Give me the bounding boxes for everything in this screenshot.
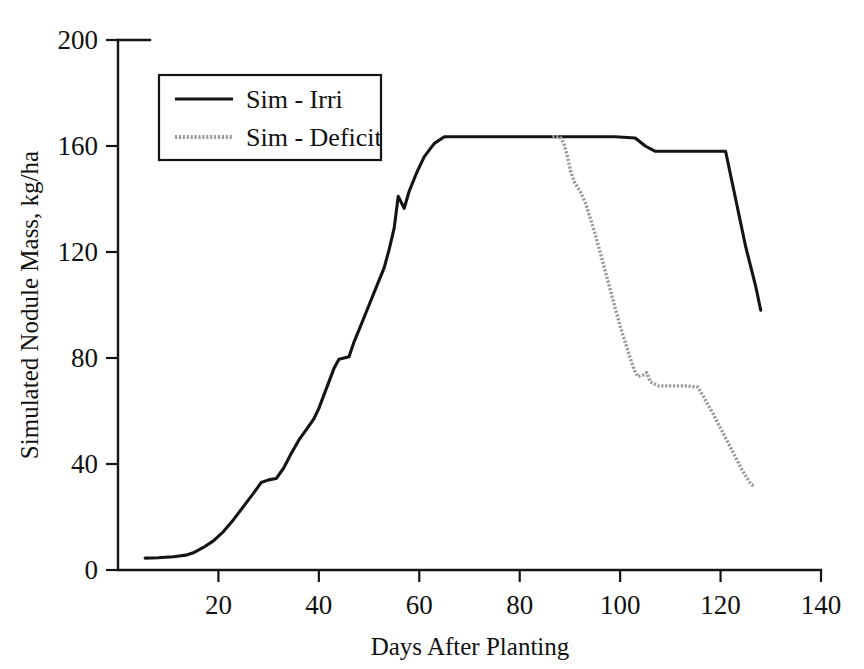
- x-tick-label-120: 120: [700, 590, 741, 620]
- x-tick-label-80: 80: [506, 590, 533, 620]
- y-tick-label-200: 200: [58, 25, 99, 55]
- y-axis-tick-labels: 04080120160200: [58, 25, 99, 585]
- legend-label-sim-irri: Sim - Irri: [246, 85, 343, 114]
- y-tick-label-120: 120: [58, 237, 99, 267]
- chart-legend: Sim - Irri Sim - Deficit: [159, 75, 383, 160]
- x-tick-label-140: 140: [801, 590, 842, 620]
- y-axis-title: Simulated Nodule Mass, kg/ha: [16, 151, 43, 459]
- line-chart-canvas: 04080120160200 20406080100120140 Days Af…: [0, 0, 864, 669]
- x-axis-ticks: [218, 570, 821, 582]
- y-tick-label-40: 40: [71, 449, 98, 479]
- series-line-sim-deficit: [552, 137, 754, 487]
- y-axis-ticks: [106, 40, 118, 570]
- y-tick-label-80: 80: [71, 343, 98, 373]
- y-tick-label-0: 0: [85, 555, 99, 585]
- x-tick-label-100: 100: [600, 590, 641, 620]
- x-axis-tick-labels: 20406080100120140: [205, 590, 841, 620]
- x-tick-label-60: 60: [406, 590, 433, 620]
- x-tick-label-40: 40: [305, 590, 332, 620]
- y-tick-label-160: 160: [58, 131, 99, 161]
- legend-label-sim-deficit: Sim - Deficit: [246, 123, 383, 152]
- x-tick-label-20: 20: [205, 590, 232, 620]
- chart-figure: 04080120160200 20406080100120140 Days Af…: [0, 0, 864, 669]
- x-axis-title: Days After Planting: [371, 633, 570, 660]
- series-line-sim-irri: [145, 137, 761, 558]
